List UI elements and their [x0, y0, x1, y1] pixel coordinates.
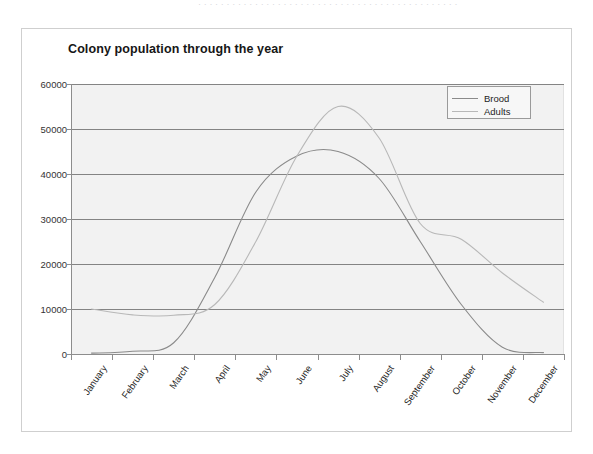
series-line-brood [92, 149, 544, 353]
y-axis-tick-mark [67, 219, 71, 220]
x-axis-tick-label: November [485, 363, 519, 405]
x-axis-tick-label: October [450, 363, 478, 397]
x-axis-tick-mark [71, 355, 72, 360]
legend-label: Adults [484, 106, 510, 117]
y-axis-tick-mark [67, 174, 71, 175]
y-axis-tick-label: 40000 [41, 169, 67, 180]
x-axis-tick-label: May [254, 363, 273, 384]
chart-title: Colony population through the year [68, 42, 283, 56]
gridline [71, 84, 564, 85]
legend-item-adults[interactable]: Adults [452, 105, 528, 118]
x-axis-tick-label: February [119, 363, 150, 400]
y-axis-tick-label: 20000 [41, 259, 67, 270]
legend-label: Brood [484, 93, 509, 104]
x-axis-tick-label: August [370, 363, 396, 394]
y-axis-spine [71, 84, 72, 355]
y-axis-tick-label: 10000 [41, 304, 67, 315]
x-axis-tick-label: September [402, 363, 438, 407]
x-axis-tick-mark [441, 355, 442, 360]
x-axis-tick-mark [564, 355, 565, 360]
gridline [71, 219, 564, 220]
x-axis-tick-mark [276, 355, 277, 360]
page-top-cut-text: · · · · · · · · · · · · · · · · · · · · … [198, 0, 578, 9]
gridline [71, 309, 564, 310]
gridline [71, 174, 564, 175]
x-axis-tick-mark [318, 355, 319, 360]
legend-item-brood[interactable]: Brood [452, 92, 528, 105]
chart-legend[interactable]: BroodAdults [447, 86, 531, 119]
y-axis-tick-label: 30000 [41, 214, 67, 225]
x-axis-tick-mark [359, 355, 360, 360]
y-axis-tick-labels: 0100002000030000400005000060000 [22, 29, 67, 433]
x-axis-tick-mark [235, 355, 236, 360]
x-axis-tick-mark [482, 355, 483, 360]
x-axis-tick-mark [112, 355, 113, 360]
series-line-adults [92, 106, 544, 316]
x-axis-tick-mark [194, 355, 195, 360]
y-axis-tick-mark [67, 264, 71, 265]
x-axis-tick-label: June [293, 363, 314, 386]
x-axis-tick-label: January [80, 363, 108, 397]
x-axis-tick-mark [400, 355, 401, 360]
chart-object-frame[interactable]: Colony population through the year 01000… [21, 28, 572, 432]
legend-line-swatch-brood [452, 98, 478, 99]
x-axis-tick-label: December [526, 363, 560, 405]
x-axis-tick-label: April [212, 363, 232, 385]
x-axis-tick-mark [523, 355, 524, 360]
gridline [71, 264, 564, 265]
x-axis-tick-mark [153, 355, 154, 360]
y-axis-tick-label: 60000 [41, 79, 67, 90]
x-axis-tick-label: July [336, 363, 355, 383]
x-axis-tick-label: March [167, 363, 191, 391]
y-axis-tick-mark [67, 309, 71, 310]
y-axis-tick-mark [67, 129, 71, 130]
y-axis-tick-label: 50000 [41, 124, 67, 135]
gridline [71, 129, 564, 130]
y-axis-tick-mark [67, 84, 71, 85]
legend-line-swatch-adults [452, 111, 478, 112]
plot-area [71, 84, 564, 354]
